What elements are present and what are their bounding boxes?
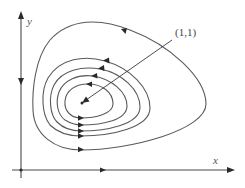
orbits — [33, 22, 206, 150]
x-axis-arrow-icon — [227, 167, 235, 173]
pointer-line — [86, 40, 172, 100]
phase-portrait-diagram: y x (1,1) — [0, 0, 245, 188]
orbit-direction-arrows — [78, 28, 127, 152]
equilibrium-annotation: (1,1) — [81, 26, 197, 105]
arrow-right-icon — [78, 128, 84, 133]
origin-dot — [19, 168, 22, 171]
arrow-right-icon — [78, 133, 84, 138]
arrow-right-icon — [78, 115, 84, 120]
arrow-right-icon — [78, 147, 84, 152]
arrow-right-icon — [78, 122, 84, 127]
arrow-left-icon — [91, 73, 98, 79]
y-axis-arrow-icon — [18, 11, 24, 19]
arrow-left-icon — [86, 82, 92, 88]
pointer-arrow-icon — [82, 97, 90, 104]
arrow-left-icon — [98, 65, 105, 71]
y-axis-down-arrow-icon — [18, 78, 24, 85]
y-axis-label: y — [26, 15, 32, 27]
arrow-left-icon — [121, 28, 127, 34]
x-axis-label: x — [212, 154, 218, 166]
equilibrium-label: (1,1) — [175, 26, 196, 39]
x-axis-mid-arrow-icon — [100, 168, 106, 173]
arrow-left-icon — [103, 58, 110, 64]
